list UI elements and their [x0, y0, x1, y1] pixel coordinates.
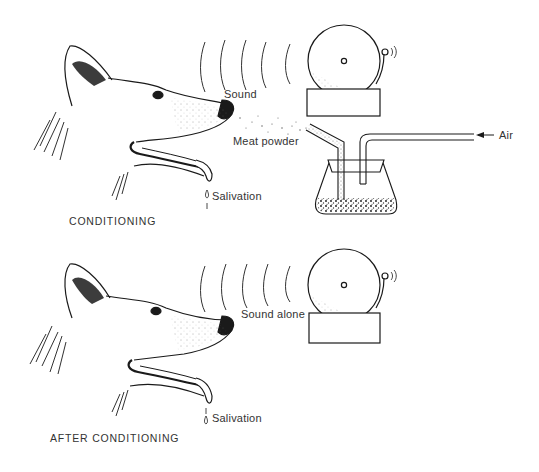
air-label: Air — [499, 129, 513, 141]
meat-powder-spray — [239, 116, 306, 135]
saliva-drops-icon — [206, 190, 209, 209]
bell-icon — [308, 249, 396, 343]
bell-icon — [307, 25, 396, 116]
flask-apparatus-icon — [306, 124, 474, 214]
sound-alone-label: Sound alone — [241, 308, 305, 320]
conditioning-caption: CONDITIONING — [69, 215, 156, 227]
saliva-drops-icon — [205, 408, 208, 424]
sound-label: Sound — [224, 88, 257, 100]
dog-head-icon — [34, 46, 234, 200]
after-conditioning-panel: Sound alone Salivation AFTER CONDITIONIN… — [0, 236, 539, 472]
sound-waves-icon — [201, 40, 291, 92]
conditioning-illustration — [0, 0, 539, 236]
after-conditioning-caption: AFTER CONDITIONING — [50, 432, 179, 444]
salivation-label: Salivation — [212, 412, 262, 424]
salivation-label: Salivation — [212, 190, 262, 202]
meat-powder-label: Meat powder — [233, 135, 299, 147]
dog-head-icon — [30, 264, 234, 416]
conditioning-panel: Sound Meat powder Air Salivation CONDITI… — [0, 0, 539, 236]
sound-waves-icon — [201, 264, 291, 312]
air-arrow-icon — [476, 132, 494, 138]
